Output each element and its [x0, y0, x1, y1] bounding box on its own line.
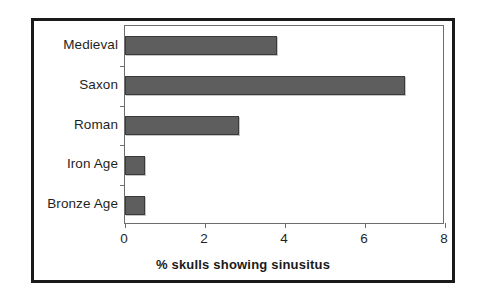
value-axis-tick-label: 6 — [360, 232, 368, 246]
value-axis-tick — [125, 223, 126, 228]
value-axis-tick — [365, 223, 366, 228]
bar-roman — [125, 116, 239, 135]
category-axis-labels: Medieval Saxon Roman Iron Age Bronze Age — [34, 25, 118, 224]
category-label-medieval: Medieval — [0, 38, 118, 52]
bar-bronze-age — [125, 196, 145, 215]
category-label-iron-age: Iron Age — [0, 157, 118, 171]
value-axis-tick — [205, 223, 206, 228]
chart-figure-frame: Medieval Saxon Roman Iron Age Bronze Age — [31, 18, 455, 283]
bar-iron-age — [125, 156, 145, 175]
bar-band — [125, 66, 443, 106]
bars-layer — [125, 26, 443, 223]
value-axis-tick — [445, 223, 446, 228]
category-axis-tick — [120, 185, 125, 186]
category-axis-tick — [120, 145, 125, 146]
category-label-saxon: Saxon — [0, 78, 118, 92]
bar-saxon — [125, 76, 405, 95]
category-label-bronze-age: Bronze Age — [0, 197, 118, 211]
bar-band — [125, 185, 443, 225]
value-axis-tick-label: 0 — [120, 232, 128, 246]
bar-band — [125, 145, 443, 185]
value-axis-tick-label: 4 — [280, 232, 288, 246]
value-axis-tick — [285, 223, 286, 228]
value-axis-tick-labels: 02468 — [124, 232, 444, 252]
value-axis-tick-label: 8 — [440, 232, 448, 246]
bar-band — [125, 26, 443, 66]
plot-box — [124, 25, 444, 224]
category-axis-tick — [120, 106, 125, 107]
category-axis-tick — [120, 66, 125, 67]
value-axis-tick-label: 2 — [200, 232, 208, 246]
bar-medieval — [125, 36, 277, 55]
chart-area: Medieval Saxon Roman Iron Age Bronze Age — [34, 21, 452, 280]
bar-band — [125, 106, 443, 146]
category-label-roman: Roman — [0, 118, 118, 132]
x-axis-title: % skulls showing sinusitus — [34, 257, 452, 272]
